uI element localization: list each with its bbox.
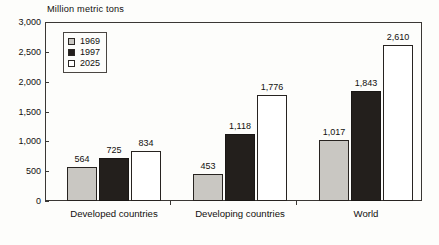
bar-developing-2025 [257, 95, 287, 201]
bar-world-2025 [383, 45, 413, 201]
legend-label-1997: 1997 [80, 47, 100, 58]
y-axis-label-1500: 1,500 [18, 107, 41, 117]
bar-developing-1969 [193, 174, 223, 201]
bar-label-developing-1997: 1,118 [229, 121, 251, 131]
chart-page: Million metric tons 3,000 2,500 2,000 1,… [0, 0, 439, 245]
legend-swatch-2025-icon [68, 60, 75, 67]
y-tick-mark-500 [45, 171, 49, 172]
bar-label-developing-2025: 1,776 [261, 82, 284, 92]
y-axis-label-1000: 1,000 [18, 136, 41, 146]
legend-label-2025: 2025 [80, 58, 100, 69]
x-axis-label-developed-countries: Developed countries [70, 208, 157, 219]
y-tick-mark-1000 [45, 141, 49, 142]
legend-item-1997: 1997 [68, 47, 100, 58]
bar-world-1969 [319, 140, 349, 201]
y-axis-label-0: 0 [36, 196, 41, 206]
legend: 1969 1997 2025 [63, 32, 107, 73]
bar-developed-1997 [99, 158, 129, 201]
y-tick-mark-3000 [45, 22, 49, 23]
y-axis-unit-title: Million metric tons [47, 4, 124, 14]
bar-label-developed-1997: 725 [106, 145, 121, 155]
y-tick-mark-2500 [45, 52, 49, 53]
bar-chart-figure: Million metric tons 3,000 2,500 2,000 1,… [0, 0, 439, 245]
y-axis-label-2500: 2,500 [18, 47, 41, 57]
bar-world-1997 [351, 91, 381, 201]
legend-swatch-1969-icon [68, 38, 75, 45]
x-axis-label-world: World [354, 208, 379, 219]
bar-developed-2025 [131, 151, 161, 201]
bar-label-developed-1969: 564 [74, 154, 89, 164]
bar-label-developing-1969: 453 [200, 161, 215, 171]
bar-label-world-1969: 1,017 [323, 127, 346, 137]
bar-label-world-1997: 1,843 [355, 78, 378, 88]
y-tick-mark-0 [45, 201, 49, 202]
group-separator-tick-1 [170, 201, 171, 205]
bar-label-world-2025: 2,610 [387, 32, 410, 42]
legend-item-2025: 2025 [68, 58, 100, 69]
y-axis-labels: 3,000 2,500 2,000 1,500 1,000 500 0 [0, 0, 41, 245]
y-tick-mark-1500 [45, 112, 49, 113]
y-axis-label-3000: 3,000 [18, 17, 41, 27]
group-separator-tick-2 [296, 201, 297, 205]
legend-label-1969: 1969 [80, 36, 100, 47]
bar-label-developed-2025: 834 [138, 138, 153, 148]
x-axis-label-developing-countries: Developing countries [195, 208, 285, 219]
bar-developed-1969 [67, 167, 97, 201]
y-axis-label-500: 500 [26, 166, 41, 176]
legend-item-1969: 1969 [68, 36, 100, 47]
y-axis-label-2000: 2,000 [18, 77, 41, 87]
legend-swatch-1997-icon [68, 49, 75, 56]
bar-developing-1997 [225, 134, 255, 201]
y-tick-mark-2000 [45, 82, 49, 83]
